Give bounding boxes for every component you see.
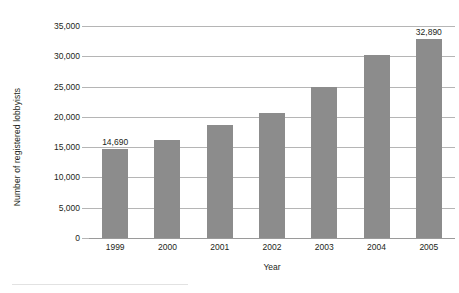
bar-slot: 2003 [298,26,350,238]
bar-chart-figure: Number of registered lobbyists 05,00010,… [0,0,459,293]
y-axis-tick-label: 15,000 [54,142,80,152]
bar[interactable] [102,149,128,238]
y-axis-tick-label: 30,000 [54,51,80,61]
y-axis-title: Number of registered lobbyists [8,62,26,232]
y-axis-tick [82,147,89,148]
bar-slot: 14,6901999 [89,26,141,238]
bar[interactable] [259,113,285,238]
y-axis-tick-label: 5,000 [59,203,80,213]
x-axis-tick-label: 2003 [315,242,334,252]
x-axis-title: Year [89,262,455,272]
y-axis-tick [82,87,89,88]
x-axis-tick-label: 1999 [106,242,125,252]
bottom-rule-divider [12,284,188,285]
bar-slot: 32,8902005 [403,26,455,238]
x-axis-tick-label: 2005 [419,242,438,252]
bar-slot: 2002 [246,26,298,238]
y-axis-tick-label: 25,000 [54,82,80,92]
bar-value-label: 32,890 [416,27,442,37]
x-axis-tick-label: 2004 [367,242,386,252]
bar-slot: 2001 [194,26,246,238]
bar-slot: 2004 [350,26,402,238]
bars-group: 14,69019992000200120022003200432,8902005 [89,26,455,238]
bar[interactable] [207,125,233,238]
y-axis-tick-label: 20,000 [54,112,80,122]
x-axis-tick-label: 2000 [158,242,177,252]
bar[interactable] [416,39,442,238]
bar-slot: 2000 [141,26,193,238]
plot-area: 05,00010,00015,00020,00025,00030,00035,0… [89,26,455,238]
y-axis-tick-label: 10,000 [54,172,80,182]
y-axis-tick [82,56,89,57]
bar[interactable] [154,140,180,238]
bar[interactable] [311,87,337,238]
y-axis-title-text: Number of registered lobbyists [12,88,22,206]
y-axis-tick [82,117,89,118]
bar[interactable] [364,55,390,238]
y-axis-tick [82,238,89,239]
y-axis-tick-label: 35,000 [54,21,80,31]
y-axis-tick [82,26,89,27]
gridline: 0 [89,238,455,239]
y-axis-tick-label: 0 [75,233,80,243]
bar-value-label: 14,690 [102,137,128,147]
y-axis-tick [82,177,89,178]
x-axis-tick-label: 2002 [263,242,282,252]
y-axis-tick [82,208,89,209]
x-axis-tick-label: 2001 [210,242,229,252]
